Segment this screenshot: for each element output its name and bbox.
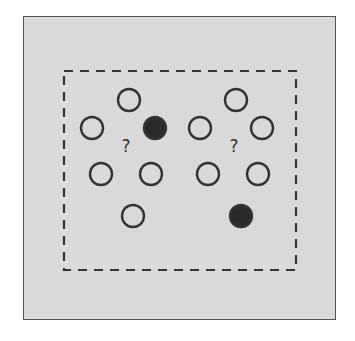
open-circle — [118, 89, 140, 111]
diagram-canvas: ?? — [0, 0, 355, 341]
open-circle — [189, 117, 211, 139]
open-circle — [247, 163, 269, 185]
open-circle — [197, 163, 219, 185]
question-mark-label: ? — [121, 136, 130, 156]
open-circle — [122, 205, 144, 227]
circle-group — [81, 89, 273, 227]
dashed-region — [64, 71, 296, 270]
question-mark-label: ? — [229, 136, 238, 156]
filled-circle — [144, 117, 166, 139]
filled-circle — [230, 205, 252, 227]
open-circle — [225, 89, 247, 111]
open-circle — [81, 117, 103, 139]
open-circle — [251, 117, 273, 139]
label-group: ?? — [121, 136, 238, 156]
open-circle — [140, 163, 162, 185]
open-circle — [90, 163, 112, 185]
